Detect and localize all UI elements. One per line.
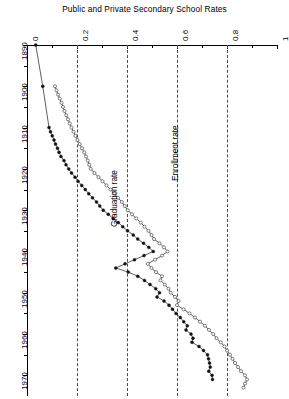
data-point (182, 320, 185, 323)
data-point (163, 300, 166, 303)
series-graduation-rate (34, 44, 214, 381)
data-point (175, 304, 178, 307)
data-point (101, 180, 104, 183)
data-point (80, 184, 83, 187)
data-point (243, 374, 246, 377)
data-point (78, 143, 81, 146)
data-point (175, 312, 178, 315)
data-point (76, 138, 79, 141)
data-point (156, 295, 159, 298)
data-point (236, 366, 239, 369)
series-line (55, 86, 247, 387)
data-point (179, 316, 182, 319)
data-point (53, 85, 56, 88)
series-label-graduation-rate: Graduation rate (110, 170, 119, 227)
data-point (177, 299, 180, 302)
data-point (126, 229, 129, 232)
data-point (207, 357, 210, 360)
data-point (58, 97, 61, 100)
data-point (83, 151, 86, 154)
data-point (182, 308, 185, 311)
data-point (84, 188, 87, 191)
data-point (98, 205, 101, 208)
data-point (87, 192, 90, 195)
data-point (169, 291, 172, 294)
data-point (48, 126, 51, 129)
data-point (58, 151, 61, 154)
data-point (121, 225, 124, 228)
data-point (65, 163, 68, 166)
data-point (61, 105, 64, 108)
data-point (65, 114, 68, 117)
data-point (67, 167, 70, 170)
data-point (152, 250, 155, 253)
data-point (153, 258, 156, 261)
data-point (228, 353, 231, 356)
data-point (105, 184, 108, 187)
data-point (166, 250, 169, 253)
data-point (127, 271, 130, 274)
data-point (193, 316, 196, 319)
data-point (143, 225, 146, 228)
data-point (147, 246, 150, 249)
data-point (219, 341, 222, 344)
series-label-enrollment-rate: Enrollment rate (171, 126, 180, 182)
data-point (160, 254, 163, 257)
data-point (152, 238, 155, 241)
data-point (192, 337, 195, 340)
data-point (231, 357, 234, 360)
data-point (56, 93, 59, 96)
data-point (72, 130, 75, 133)
data-point (212, 333, 215, 336)
series-enrollment-rate (53, 85, 248, 390)
data-point (207, 328, 210, 331)
data-point (74, 176, 77, 179)
data-point (70, 172, 73, 175)
data-point (53, 138, 56, 141)
data-point (136, 238, 139, 241)
data-point (173, 295, 176, 298)
data-point (139, 221, 142, 224)
data-point (211, 374, 214, 377)
data-point (208, 361, 211, 364)
data-point (34, 44, 37, 47)
data-point (160, 275, 163, 278)
data-point (162, 246, 165, 249)
data-point (132, 233, 135, 236)
data-point (215, 337, 218, 340)
data-point (56, 147, 59, 150)
data-point (60, 101, 63, 104)
data-point (211, 378, 214, 381)
data-point (126, 209, 129, 212)
data-point (135, 217, 138, 220)
data-point (188, 312, 191, 315)
data-point (242, 386, 245, 389)
data-point (223, 345, 226, 348)
data-point (190, 333, 193, 336)
data-point (198, 345, 201, 348)
data-point (207, 370, 210, 373)
data-point (185, 328, 188, 331)
data-point (84, 155, 87, 158)
data-point (171, 308, 174, 311)
data-point (168, 304, 171, 307)
data-point (143, 254, 146, 257)
data-point (102, 209, 105, 212)
data-point (93, 171, 96, 174)
data-point (136, 275, 139, 278)
data-point (86, 159, 89, 162)
data-point (114, 266, 117, 269)
data-point (130, 213, 133, 216)
data-point (159, 279, 162, 282)
data-point (243, 382, 246, 385)
data-point (209, 366, 212, 369)
data-point (89, 167, 92, 170)
data-point (191, 341, 194, 344)
data-point (198, 320, 201, 323)
data-point (239, 370, 242, 373)
series-plot-layer (0, 0, 289, 399)
data-point (120, 200, 123, 203)
data-point (133, 258, 136, 261)
data-point (77, 180, 80, 183)
data-point (202, 349, 205, 352)
